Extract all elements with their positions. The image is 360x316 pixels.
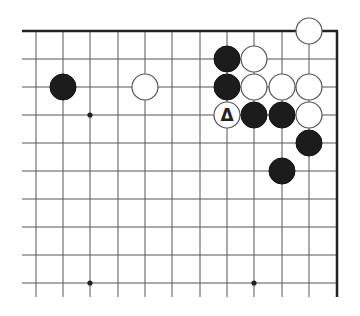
black-stone xyxy=(269,102,295,128)
white-stone: Δ xyxy=(214,102,240,128)
triangle-marker-icon: Δ xyxy=(220,105,234,125)
white-stone xyxy=(241,46,267,72)
white-stone xyxy=(241,74,267,100)
white-stone xyxy=(132,74,158,100)
star-point xyxy=(251,280,256,285)
black-stone xyxy=(214,74,240,100)
black-stone xyxy=(296,130,322,156)
black-stone xyxy=(241,102,267,128)
black-stone xyxy=(50,74,76,100)
star-point xyxy=(87,280,92,285)
white-stone xyxy=(296,18,322,44)
go-board: Δ xyxy=(0,0,360,316)
white-stone xyxy=(269,74,295,100)
white-stone xyxy=(296,102,322,128)
white-stone xyxy=(296,74,322,100)
black-stone xyxy=(269,158,295,184)
star-point xyxy=(87,112,92,117)
stones: Δ xyxy=(50,18,322,184)
black-stone xyxy=(214,46,240,72)
